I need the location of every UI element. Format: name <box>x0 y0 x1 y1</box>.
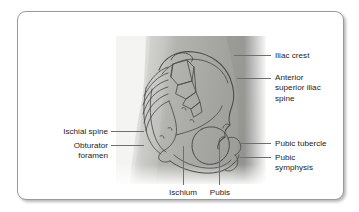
label-pubic-tubercle: Pubic tubercle <box>275 139 327 149</box>
pelvis-illustration-svg <box>116 36 266 184</box>
leader-line-iliac-crest <box>234 55 271 56</box>
label-obturator-foramen: Obturator foramen <box>38 141 108 162</box>
label-ischial-spine: Ischial spine <box>38 127 108 137</box>
leader-line-pubic-tubercle <box>240 143 271 144</box>
figure-container: Iliac crest Anterior superior iliac spin… <box>0 0 359 212</box>
leader-line-ischial-spine <box>111 131 144 132</box>
label-pubic-symphysis: Pubic symphysis <box>275 153 313 174</box>
leader-line-obturator-foramen <box>111 145 144 146</box>
panel-right-fade <box>244 36 266 184</box>
leader-line-ischium <box>183 146 184 185</box>
figure-card: Iliac crest Anterior superior iliac spin… <box>17 11 344 200</box>
leader-line-pubis <box>219 143 220 185</box>
panel-bottom-fade <box>116 164 266 184</box>
panel-left-fade <box>116 36 142 184</box>
label-pubis: Pubis <box>200 188 240 198</box>
label-iliac-crest: Iliac crest <box>275 51 309 61</box>
leader-line-anterior-superior-iliac-spine <box>237 78 271 79</box>
label-anterior-superior-iliac-spine: Anterior superior iliac spine <box>275 73 321 104</box>
pelvis-illustration-panel <box>116 36 266 184</box>
leader-line-pubic-symphysis <box>240 157 271 158</box>
